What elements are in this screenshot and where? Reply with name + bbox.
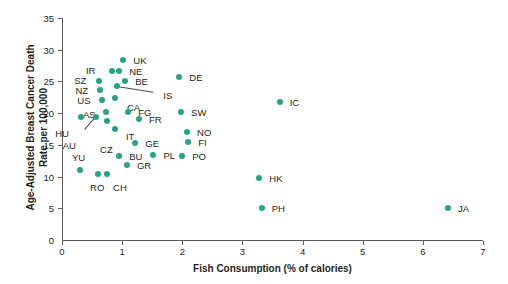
data-point-ge[interactable] (132, 140, 138, 146)
data-point-is[interactable] (114, 83, 120, 89)
data-point-cz[interactable] (104, 118, 110, 124)
data-point-label-de: DE (189, 71, 202, 82)
x-tick-5 (363, 241, 364, 245)
data-point-label-po: PO (192, 150, 206, 161)
x-axis-title: Fish Consumption (% of calories) (62, 263, 483, 274)
x-tick-label-1: 1 (119, 246, 124, 257)
is-leader (117, 86, 153, 93)
data-point-au[interactable] (93, 114, 99, 120)
data-point-no[interactable] (184, 129, 190, 135)
x-tick-label-7: 7 (480, 246, 485, 257)
data-point-sz[interactable] (96, 78, 102, 84)
data-point-label-ph: PH (272, 202, 285, 213)
x-tick-1 (122, 241, 123, 245)
data-point-label-sw: SW (191, 106, 206, 117)
data-point-po[interactable] (179, 153, 185, 159)
data-point-ir[interactable] (109, 68, 115, 74)
data-point-label-au: AU (63, 139, 76, 150)
data-point-label-hu: HU (55, 127, 69, 138)
x-tick-label-3: 3 (240, 246, 245, 257)
data-point-sw[interactable] (178, 109, 184, 115)
data-point-label-ge: GE (145, 137, 159, 148)
data-point-ca[interactable] (112, 95, 118, 101)
data-point-ne[interactable] (116, 68, 122, 74)
data-point-label-is: IS (163, 89, 172, 100)
data-point-label-cz: CZ (100, 143, 113, 154)
data-point-label-ro: RO (90, 182, 104, 193)
data-point-fr[interactable] (136, 116, 142, 122)
data-point-label-uk: UK (133, 54, 146, 65)
data-point-ic[interactable] (277, 99, 283, 105)
data-point-label-no: NO (197, 126, 211, 137)
scatter-plot-figure: 0123456705101520253035 UKIRNEBESZNZISUSC… (0, 0, 508, 284)
x-tick-label-2: 2 (180, 246, 185, 257)
data-point-uk[interactable] (120, 57, 126, 63)
data-point-label-fr: FR (149, 113, 162, 124)
data-point-yu[interactable] (77, 167, 83, 173)
x-tick-label-5: 5 (360, 246, 365, 257)
data-point-be[interactable] (122, 78, 128, 84)
data-point-label-yu: YU (72, 152, 85, 163)
data-point-us[interactable] (99, 97, 105, 103)
data-point-ch[interactable] (104, 171, 110, 177)
data-point-gr[interactable] (124, 162, 130, 168)
plot-area: UKIRNEBESZNZISUSCAASFGFRHUAUCZITGEFINOPL… (62, 18, 483, 240)
y-axis-title-line-2: Rate per 100,000 (37, 13, 50, 243)
data-point-label-pl: PL (163, 150, 175, 161)
data-point-ph[interactable] (259, 205, 265, 211)
x-tick-6 (423, 241, 424, 245)
x-tick-label-4: 4 (300, 246, 305, 257)
data-point-as[interactable] (103, 109, 109, 115)
data-point-de[interactable] (176, 74, 182, 80)
data-point-nz[interactable] (97, 87, 103, 93)
x-tick-7 (483, 241, 484, 245)
x-tick-3 (242, 241, 243, 245)
data-point-label-ch: CH (113, 182, 127, 193)
data-point-fg[interactable] (125, 109, 131, 115)
x-tick-label-0: 0 (59, 246, 64, 257)
y-axis-title: Age-Adjusted Breast Cancer Death Rate pe… (25, 13, 50, 243)
data-point-fi[interactable] (185, 139, 191, 145)
data-point-ja[interactable] (445, 205, 451, 211)
x-tick-4 (303, 241, 304, 245)
data-point-label-be: BE (135, 75, 148, 86)
y-axis-title-line-1: Age-Adjusted Breast Cancer Death (25, 13, 38, 243)
x-tick-label-6: 6 (420, 246, 425, 257)
data-point-label-us: US (77, 94, 90, 105)
data-point-label-hk: HK (269, 173, 282, 184)
x-tick-2 (182, 241, 183, 245)
data-point-label-fi: FI (198, 136, 206, 147)
data-point-label-ja: JA (458, 202, 469, 213)
data-point-label-gr: GR (137, 159, 151, 170)
data-point-ro[interactable] (95, 171, 101, 177)
data-point-label-ir: IR (86, 65, 96, 76)
data-point-pl[interactable] (150, 152, 156, 158)
x-tick-0 (62, 241, 63, 245)
x-axis-line (62, 240, 483, 241)
data-point-label-ic: IC (290, 97, 300, 108)
data-point-it[interactable] (112, 126, 118, 132)
data-point-bu[interactable] (116, 153, 122, 159)
data-point-hu[interactable] (78, 114, 84, 120)
data-point-hk[interactable] (256, 175, 262, 181)
